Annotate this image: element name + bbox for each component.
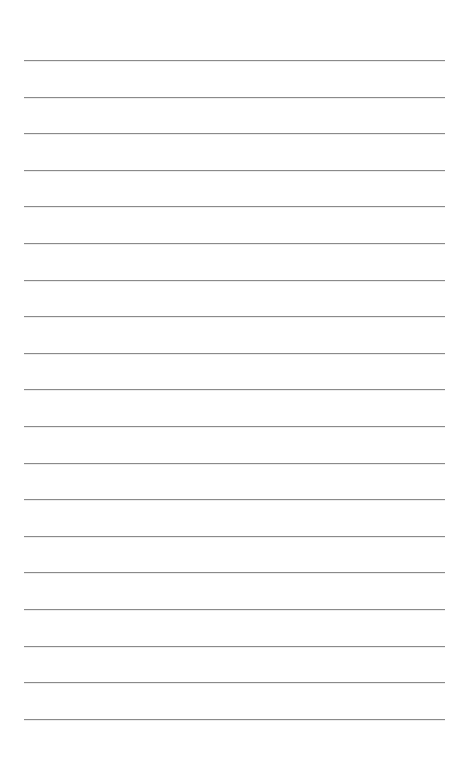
ruled-line (24, 499, 445, 500)
ruled-line (24, 97, 445, 98)
ruled-line (24, 353, 445, 354)
ruled-line (24, 389, 445, 390)
ruled-line (24, 572, 445, 573)
ruled-line (24, 206, 445, 207)
ruled-line (24, 426, 445, 427)
ruled-line (24, 646, 445, 647)
ruled-line (24, 682, 445, 683)
lined-paper-page (0, 0, 468, 757)
ruled-line (24, 60, 445, 61)
ruled-line (24, 316, 445, 317)
ruled-line (24, 719, 445, 720)
ruled-line (24, 243, 445, 244)
ruled-line (24, 609, 445, 610)
ruled-line (24, 133, 445, 134)
ruled-line (24, 280, 445, 281)
ruled-line (24, 536, 445, 537)
ruled-line (24, 463, 445, 464)
ruled-line (24, 170, 445, 171)
